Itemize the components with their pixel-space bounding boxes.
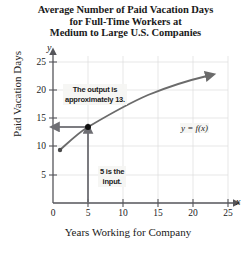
x-tick-label-5: 5 xyxy=(79,208,97,218)
output-annotation-line-1: The output is xyxy=(65,85,125,95)
x-axis-label: Years Working for Company xyxy=(28,226,228,238)
chart-canvas xyxy=(0,0,251,257)
x-tick-label-0: 0 xyxy=(44,208,62,218)
y-tick-label-20: 20 xyxy=(28,85,46,95)
curve-function-label: y = f(x) xyxy=(180,123,209,133)
y-axis-symbol: y xyxy=(47,42,51,53)
x-tick-label-25: 25 xyxy=(219,208,237,218)
output-annotation: The output is approximately 13. xyxy=(63,84,127,105)
output-annotation-line-2: approximately 13. xyxy=(65,95,125,105)
marked-point xyxy=(85,124,91,130)
y-tick-label-25: 25 xyxy=(28,57,46,67)
input-annotation-line-1: 5 is the xyxy=(100,167,124,177)
input-annotation: 5 is the input. xyxy=(98,166,126,187)
x-tick-label-10: 10 xyxy=(114,208,132,218)
y-axis-label: Paid Vacation Days xyxy=(11,29,23,159)
chart-figure: Average Number of Paid Vacation Days for… xyxy=(0,0,251,257)
y-tick-label-10: 10 xyxy=(28,141,46,151)
x-tick-label-20: 20 xyxy=(184,208,202,218)
y-tick-label-15: 15 xyxy=(28,113,46,123)
y-tick-label-5: 5 xyxy=(28,170,46,180)
input-annotation-line-2: input. xyxy=(100,177,124,187)
x-axis-symbol: x xyxy=(236,196,240,207)
x-tick-label-15: 15 xyxy=(149,208,167,218)
